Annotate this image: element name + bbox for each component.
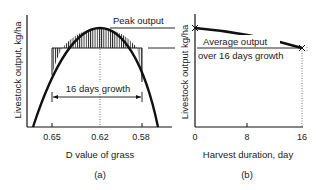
span-label: 16 days growth — [66, 83, 130, 94]
arrow-head-left-icon — [53, 95, 58, 99]
x-axis-label-b: Harvest duration, day — [203, 149, 294, 160]
tick-label: 0 — [192, 132, 197, 142]
average-output-label-2: over 16 days growth — [198, 50, 284, 61]
end-marker-dots: : — [306, 45, 308, 52]
panel-b: : Average output over 16 days growth Liv… — [179, 14, 308, 180]
tick-label: 8 — [244, 132, 249, 142]
x-axis-label-a: D value of grass — [66, 149, 135, 160]
y-axis-label-a: Livestock output, kg/ha — [12, 21, 23, 119]
y-axis-label-b: Livestock output kg/ha — [179, 24, 190, 119]
average-output-label: Average output — [203, 36, 268, 47]
peak-output-label: Peak output — [113, 15, 164, 26]
tick-label: 0.58 — [132, 132, 150, 142]
arrow-head-right-icon — [136, 95, 141, 99]
caption-b: (b) — [241, 169, 253, 180]
tick-label: 0.65 — [43, 132, 61, 142]
caption-a: (a) — [94, 169, 106, 180]
tick-label: 0.62 — [91, 132, 109, 142]
tick-label: 16 — [297, 132, 307, 142]
panel-a: 16 days growth Peak output Livestock out… — [12, 15, 175, 180]
chart-figure: 16 days growth Peak output Livestock out… — [0, 0, 316, 190]
